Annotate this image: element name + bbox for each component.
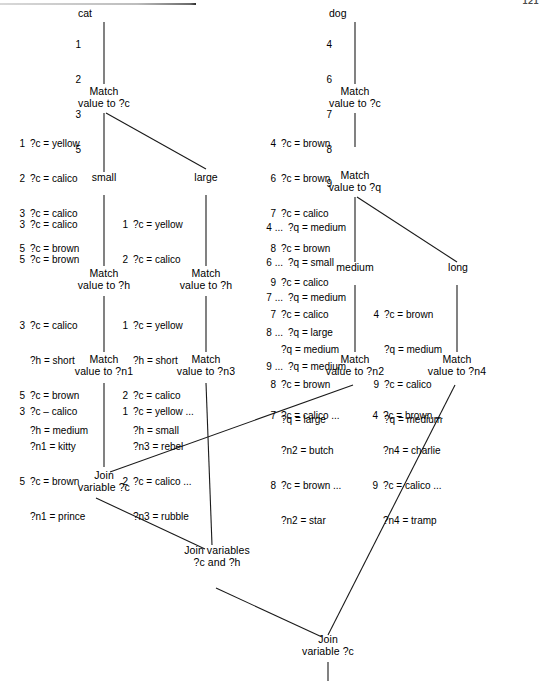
- token-row: 4?c = brown: [364, 309, 442, 321]
- token-row: 3?c = calico: [10, 219, 79, 231]
- node-dog-match-c-title: Match value to ?c: [305, 86, 405, 109]
- token-row: 4?c = brown: [261, 138, 330, 150]
- token-row: 3?c – calico: [10, 406, 85, 418]
- node-join-variable-c-left: Join variable ?c: [52, 470, 156, 493]
- token-row: ?n3 = rubble: [113, 511, 194, 523]
- branch-label-large: large: [176, 172, 236, 184]
- node-match-n4-tokens: 4?c = brown ... ?n4 = charlie 9?c = cali…: [363, 387, 443, 549]
- node-match-n4-title: Match value to ?n4: [405, 354, 509, 377]
- token-row: 7?c = calico: [261, 309, 339, 321]
- token-row: 3?c = calico: [10, 320, 88, 332]
- node-join-variables-c-and-h: Join variables ?c and ?h: [158, 545, 276, 568]
- cat-root-label: cat: [78, 8, 138, 20]
- node-large-match-h-title: Match value to ?h: [156, 268, 256, 291]
- node-match-n3-title: Match value to ?n3: [154, 354, 258, 377]
- token-row: 5?c = brown: [10, 254, 79, 266]
- token-row: 4?c = brown ...: [363, 410, 443, 422]
- token-row: ?n2 = star: [261, 515, 341, 527]
- token-row: 1?c = yellow: [113, 320, 183, 332]
- token-row: 1?c = yellow: [113, 219, 183, 231]
- token-row: 1?c = yellow: [10, 138, 80, 150]
- token-row: 9?c = calico ...: [363, 480, 443, 492]
- token-row: ?n3 = rebel: [113, 441, 194, 453]
- wire-joinch-joinbottom: [216, 588, 322, 637]
- node-match-n3-tokens: 1?c = yellow ... ?n3 = rebel 2?c = calic…: [113, 383, 194, 545]
- token-row: 8?c = brown ...: [261, 480, 341, 492]
- wire-cat-c-large: [106, 113, 206, 169]
- node-match-n1-title: Match value to ?n1: [52, 354, 156, 377]
- diagram-page: 121: [0, 0, 543, 681]
- branch-label-medium: medium: [322, 262, 388, 274]
- wire-dog-q-long: [357, 197, 457, 262]
- node-match-n2-title: Match value to ?n2: [303, 354, 407, 377]
- node-small-match-h-title: Match value to ?h: [54, 268, 154, 291]
- wire-n3-join: [206, 383, 212, 545]
- header-rule: [0, 3, 196, 5]
- token-row: 2: [66, 74, 86, 86]
- token-row: 2?c = calico: [113, 254, 183, 266]
- node-match-n2-tokens: 7?c = calico ... ?n2 = butch 8?c = brown…: [261, 387, 341, 549]
- branch-label-small: small: [74, 172, 134, 184]
- token-row: 2?c = calico: [10, 173, 80, 185]
- token-row: ?n1 = prince: [10, 511, 85, 523]
- branch-label-long: long: [428, 262, 488, 274]
- node-dog-match-q-title: Match value to ?q: [305, 170, 405, 193]
- page-folio: 121: [522, 0, 539, 6]
- token-row: ?n2 = butch: [261, 445, 341, 457]
- token-row: 4: [317, 39, 337, 51]
- token-row: 1: [66, 39, 86, 51]
- node-join-variable-c-bottom: Join variable ?c: [276, 634, 380, 657]
- node-match-n1-tokens: 3?c – calico ?n1 = kitty 5?c = brown ?n1…: [10, 383, 85, 545]
- token-row: 4 ...?q = medium: [255, 222, 346, 234]
- dog-root-label: dog: [329, 8, 389, 20]
- token-row: ?n1 = kitty: [10, 441, 85, 453]
- token-row: ?n4 = tramp: [363, 515, 443, 527]
- token-row: 6: [317, 74, 337, 86]
- token-row: 7?c = calico ...: [261, 410, 341, 422]
- node-cat-match-c-title: Match value to ?c: [54, 86, 154, 109]
- token-row: 1?c = yellow ...: [113, 406, 194, 418]
- token-row: ?n4 = charlie: [363, 445, 443, 457]
